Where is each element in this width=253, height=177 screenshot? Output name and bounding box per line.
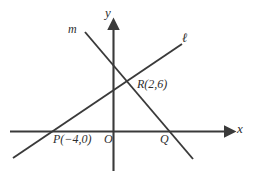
coordinate-geometry-figure: y x m ℓ R(2,6) P(−4,0) O Q (0, 0, 253, 177)
y-axis-label: y (105, 6, 111, 19)
point-r-label: R(2,6) (137, 78, 167, 90)
line-m-label: m (68, 23, 77, 35)
line-l-label: ℓ (182, 31, 187, 44)
point-q-label: Q (160, 133, 169, 145)
point-p-label: P(−4,0) (53, 133, 91, 145)
line-m (85, 32, 193, 159)
figure-canvas (0, 0, 253, 177)
x-axis-label: x (237, 122, 243, 135)
origin-label: O (104, 133, 113, 145)
line-l (13, 44, 182, 158)
